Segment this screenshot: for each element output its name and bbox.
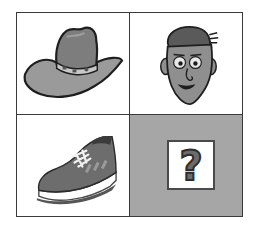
question-mark-icon: ? bbox=[179, 146, 202, 186]
sneaker-icon bbox=[17, 115, 129, 216]
cell-unknown[interactable]: ? bbox=[130, 115, 242, 216]
cell-cowboy-hat[interactable] bbox=[17, 13, 130, 115]
question-box[interactable]: ? bbox=[167, 140, 215, 190]
cell-sneaker[interactable] bbox=[17, 115, 130, 216]
man-face-icon bbox=[130, 13, 242, 114]
cell-man-face[interactable] bbox=[130, 13, 242, 115]
cowboy-hat-icon bbox=[17, 13, 129, 114]
analogy-grid: ? bbox=[16, 12, 243, 217]
